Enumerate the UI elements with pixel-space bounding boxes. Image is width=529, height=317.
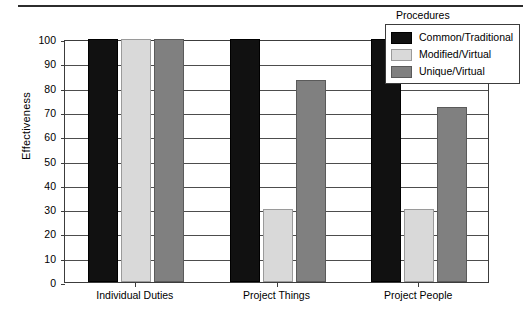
y-axis-tickmark xyxy=(61,41,65,42)
bar xyxy=(296,80,326,282)
y-axis-tick-label: 90 xyxy=(16,58,56,70)
y-axis-tick-label: 70 xyxy=(16,107,56,119)
chart-legend: Common/TraditionalModified/VirtualUnique… xyxy=(385,24,520,84)
legend-item: Modified/Virtual xyxy=(391,46,514,63)
y-axis-tickmark xyxy=(61,187,65,188)
y-axis-tick-label: 30 xyxy=(16,204,56,216)
top-divider-rule xyxy=(18,5,523,7)
x-axis-tick-label: Individual Duties xyxy=(96,289,173,301)
bar xyxy=(404,209,434,282)
y-axis-tickmark xyxy=(61,211,65,212)
y-axis-tick-label: 0 xyxy=(16,277,56,289)
y-axis-tickmark xyxy=(61,284,65,285)
bar xyxy=(263,209,293,282)
x-axis-tickmark xyxy=(418,283,419,287)
legend-item-label: Modified/Virtual xyxy=(419,49,491,60)
legend-swatch-icon xyxy=(391,32,412,44)
y-axis-title: Effectiveness xyxy=(20,56,32,196)
legend-item: Unique/Virtual xyxy=(391,63,514,80)
x-axis-tickmark xyxy=(135,283,136,287)
y-axis-tickmark xyxy=(61,235,65,236)
y-axis-tickmark xyxy=(61,163,65,164)
legend-item-label: Common/Traditional xyxy=(419,32,513,43)
legend-swatch-icon xyxy=(391,49,412,61)
x-axis-tick-label: Project People xyxy=(384,289,452,301)
y-axis-tick-label: 20 xyxy=(16,228,56,240)
y-axis-tick-label: 40 xyxy=(16,180,56,192)
chart-figure: Effectiveness 1009080706050403020100 Ind… xyxy=(0,0,529,317)
y-axis-tick-label: 10 xyxy=(16,253,56,265)
bar xyxy=(230,39,260,282)
legend-swatch-icon xyxy=(391,66,412,78)
y-axis-tickmark xyxy=(61,114,65,115)
bar xyxy=(88,39,118,282)
x-axis-tickmark xyxy=(277,283,278,287)
y-axis-tickmark xyxy=(61,90,65,91)
legend-item-label: Unique/Virtual xyxy=(419,66,485,77)
legend-item: Common/Traditional xyxy=(391,29,514,46)
y-axis-tick-label: 60 xyxy=(16,131,56,143)
y-axis-tickmark xyxy=(61,138,65,139)
y-axis-tick-label: 50 xyxy=(16,156,56,168)
y-axis-tick-label: 100 xyxy=(16,34,56,46)
bar xyxy=(154,39,184,282)
y-axis-tickmark xyxy=(61,65,65,66)
legend-title: Procedures xyxy=(396,9,450,21)
y-axis-tickmark xyxy=(61,260,65,261)
bar xyxy=(437,107,467,282)
bar xyxy=(121,39,151,282)
y-axis-tick-label: 80 xyxy=(16,83,56,95)
x-axis-tick-label: Project Things xyxy=(243,289,310,301)
